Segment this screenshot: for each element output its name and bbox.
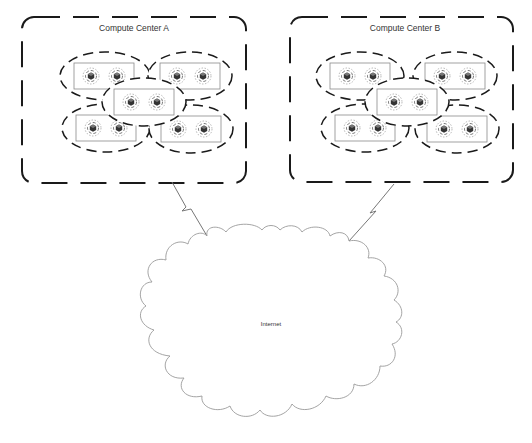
compute-center-a-label: Compute Center A xyxy=(99,23,169,33)
internet-label: Internet xyxy=(261,321,282,327)
cluster-b-3 xyxy=(365,78,449,126)
compute-center-a: Compute Center A xyxy=(22,17,246,183)
internet-cloud: Internet xyxy=(140,224,401,416)
wireless-link-b-icon xyxy=(349,184,394,241)
network-diagram: Compute Center A Compute Center B xyxy=(0,0,532,443)
wireless-link-a-icon xyxy=(172,182,207,236)
server-cube-icon xyxy=(377,89,437,115)
compute-center-b-label: Compute Center B xyxy=(370,23,441,33)
server-cube-icon xyxy=(114,89,174,115)
cluster-a-3 xyxy=(102,78,186,126)
compute-center-b: Compute Center B xyxy=(290,17,513,182)
